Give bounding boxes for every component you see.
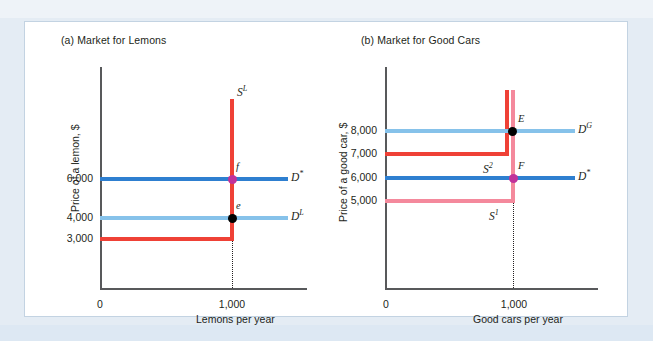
panel-b-curve-S2-horizontal	[385, 152, 509, 156]
panel-a-y-axis-title: Price of a lemon, $	[69, 124, 81, 212]
panel-b-x-axis-title: Good cars per year	[473, 313, 563, 325]
panel-b-point-E-label: E	[518, 113, 524, 124]
panel-b-curve-DG	[385, 129, 575, 133]
panel-b-point-F-marker	[509, 174, 518, 183]
panel-a-xtick-origin: 0	[87, 298, 113, 310]
page-background-bottom	[0, 325, 653, 341]
panel-b-curve-label-S2: S2	[483, 161, 493, 175]
panel-a-curve-Dstar	[100, 177, 288, 181]
panel-a-point-e-marker	[228, 214, 237, 223]
page-background-top	[0, 0, 653, 18]
chart-panel-lemons: (a) Market for Lemons Price of a lemon, …	[25, 22, 327, 318]
panel-b-curve-label-Dstar: D*	[578, 168, 590, 182]
panel-a-x-axis-title: Lemons per year	[196, 313, 275, 325]
panel-a-point-f-marker	[228, 175, 237, 184]
panel-b-title: (b) Market for Good Cars	[361, 34, 480, 46]
panel-a-ytick-4000: 4,000	[35, 211, 93, 223]
panel-b-xtick-origin: 0	[373, 298, 399, 310]
panel-b-point-E-marker	[508, 127, 517, 136]
panel-b-curve-label-S1: S1	[489, 208, 499, 222]
panel-b-curve-Dstar	[385, 176, 575, 180]
panel-a-title: (a) Market for Lemons	[61, 34, 166, 46]
panel-a-x-axis	[100, 288, 307, 290]
chart-panel-good-cars: (b) Market for Good Cars Price of a good…	[325, 22, 627, 318]
panel-b-ytick-5000: 5,000	[325, 194, 377, 206]
panel-a-ytick-3000: 3,000	[35, 232, 93, 244]
panel-a-dropline	[232, 241, 233, 288]
panel-a-curve-label-SL: SL	[237, 84, 247, 98]
panel-a-curve-label-Dstar: D*	[291, 169, 303, 183]
panel-b-ytick-7000: 7,000	[325, 147, 377, 159]
panel-a-curve-SL-horizontal	[100, 237, 234, 241]
figure-card: (a) Market for Lemons Price of a lemon, …	[24, 21, 628, 317]
panel-a-ytick-6000: 6,000	[35, 172, 93, 184]
panel-b-curve-S2-vertical	[505, 90, 509, 156]
panel-b-ytick-8000: 8,000	[325, 124, 377, 136]
panel-b-dropline	[513, 203, 514, 288]
panel-b-curve-S1-vertical	[511, 90, 515, 203]
panel-a-curve-DL	[100, 216, 288, 220]
panel-a-xtick-1000: 1,000	[203, 298, 261, 310]
figure-root: (a) Market for Lemons Price of a lemon, …	[0, 0, 653, 341]
panel-b-curve-S1-horizontal	[385, 199, 515, 203]
panel-b-ytick-6000: 6,000	[325, 171, 377, 183]
panel-a-curve-label-DL: DL	[291, 208, 304, 222]
panel-b-curve-label-DG: DG	[578, 121, 592, 135]
panel-a-point-f-label: f	[236, 161, 239, 172]
panel-a-point-e-label: e	[236, 200, 241, 211]
panel-b-point-F-label: F	[518, 160, 524, 171]
panel-b-xtick-1000: 1,000	[485, 298, 543, 310]
panel-b-x-axis	[385, 288, 598, 290]
